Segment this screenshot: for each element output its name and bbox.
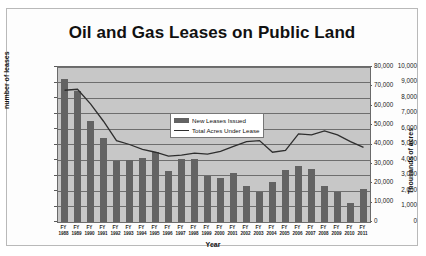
x-axis-tick-label-line: 2011	[356, 231, 369, 237]
plot-area	[57, 66, 371, 223]
x-axis-tick-label-line: 2003	[252, 231, 265, 237]
chart-title: Oil and Gas Leases on Public Land	[7, 23, 417, 43]
chart-frame: Oil and Gas Leases on Public Land number…	[6, 8, 418, 246]
y-axis-left-tick-label: 3,000	[372, 171, 417, 177]
x-axis-tick-label-line: 1995	[148, 231, 161, 237]
y-axis-right-tick-label: 0	[374, 218, 378, 224]
y-axis-left-tick-label: 2,000	[372, 187, 417, 193]
x-axis-tick-label-line: 2000	[213, 231, 226, 237]
y-axis-right-tick-label: 80,000	[374, 63, 393, 69]
y-axis-right-tick-label: 50,000	[374, 121, 393, 127]
legend-label: New Leases Issued	[192, 116, 246, 126]
x-axis-tick-label-line: 1994	[135, 231, 148, 237]
y-axis-right-tick-label: 30,000	[374, 160, 393, 166]
x-axis-tick-label-line: 1997	[174, 231, 187, 237]
y-axis-left-title: number of leases	[3, 51, 10, 109]
x-axis-tick-label-line: 1996	[161, 231, 174, 237]
legend-bar-swatch-icon	[174, 118, 189, 123]
x-axis-tick-label-line: 1992	[109, 231, 122, 237]
y-axis-left-tick-label: 7,000	[372, 109, 417, 115]
x-axis-tick-label-line: 2008	[317, 231, 330, 237]
x-axis-tick-label-line: 1991	[96, 231, 109, 237]
x-axis-tick-label-line: 1988	[57, 231, 70, 237]
x-axis-tick-label-line: 2004	[265, 231, 278, 237]
chart-legend: New Leases Issued Total Acres Under Leas…	[170, 113, 264, 138]
legend-line-swatch-icon	[174, 128, 189, 133]
x-axis-tick-label-line: 1990	[83, 231, 96, 237]
x-axis-tick-label-line: 2001	[226, 231, 239, 237]
x-axis-tick-label-line: 2010	[343, 231, 356, 237]
x-axis-tick-label-line: 1998	[187, 231, 200, 237]
x-axis-tick-label-line: 1989	[70, 231, 83, 237]
y-axis-right-tick-label: 70,000	[374, 82, 393, 88]
y-axis-right-tick-label: 60,000	[374, 102, 393, 108]
y-axis-right-tick-label: 10,000	[374, 198, 393, 204]
x-axis-tick-label-line: 1993	[122, 231, 135, 237]
x-axis-title: Year	[57, 241, 369, 248]
y-axis-left-tick-label: 8,000	[372, 94, 417, 100]
x-axis-tick-label-line: 2007	[304, 231, 317, 237]
x-axis-tick-label-line: 2009	[330, 231, 343, 237]
legend-item-total-acres-under-lease: Total Acres Under Lease	[174, 126, 259, 136]
x-axis-tick-label-line: 2006	[291, 231, 304, 237]
y-axis-right-tick-label: 20,000	[374, 179, 393, 185]
y-axis-left-tick-label: 0	[372, 218, 417, 224]
legend-label: Total Acres Under Lease	[192, 126, 259, 136]
x-axis-tick-label-line: 2002	[239, 231, 252, 237]
x-axis-tick-label-line: 1999	[200, 231, 213, 237]
legend-item-new-leases-issued: New Leases Issued	[174, 116, 259, 126]
line-series-total-acres-under-lease	[58, 67, 370, 222]
x-axis-tick-label-line: 2005	[278, 231, 291, 237]
y-axis-right-tick-label: 40,000	[374, 140, 393, 146]
